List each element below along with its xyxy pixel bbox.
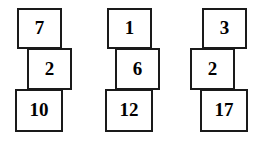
box-s3-top[interactable]: 3 [202, 8, 247, 49]
box-value-label: 12 [120, 100, 139, 119]
box-s2-bottom[interactable]: 12 [105, 89, 153, 132]
box-s3-bottom[interactable]: 17 [200, 89, 248, 132]
box-s1-middle[interactable]: 2 [27, 48, 72, 90]
box-value-label: 1 [125, 18, 135, 37]
box-s1-top[interactable]: 7 [17, 8, 62, 49]
box-s1-bottom[interactable]: 10 [15, 89, 63, 132]
box-value-label: 6 [133, 59, 143, 78]
box-value-label: 2 [45, 59, 55, 78]
box-value-label: 10 [30, 100, 49, 119]
box-s2-top[interactable]: 1 [107, 8, 152, 49]
box-value-label: 2 [208, 59, 218, 78]
box-s3-middle[interactable]: 2 [190, 48, 235, 90]
box-value-label: 17 [215, 100, 234, 119]
box-value-label: 7 [35, 18, 45, 37]
figure-canvas: 721016123217 [0, 0, 258, 146]
box-value-label: 3 [220, 18, 230, 37]
box-s2-middle[interactable]: 6 [115, 48, 160, 90]
